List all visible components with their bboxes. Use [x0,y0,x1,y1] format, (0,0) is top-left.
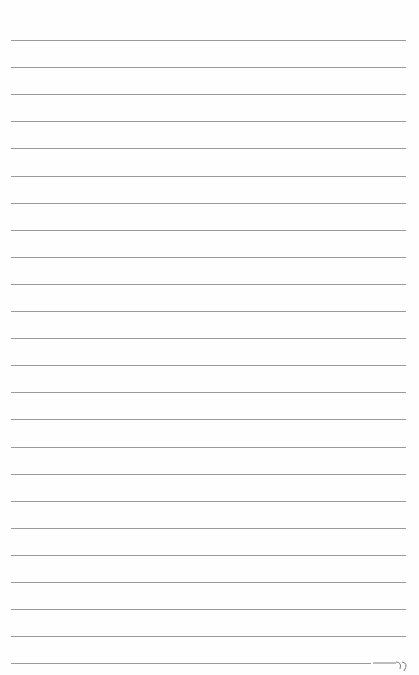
ruled-line [11,311,406,312]
ruled-line [11,528,406,529]
ruled-line [11,67,406,68]
ruled-line [11,121,406,122]
ruled-line [11,94,406,95]
ruled-line [11,582,406,583]
ruled-line [11,148,406,149]
ruled-line [11,474,406,475]
ruled-line [11,338,406,339]
ruled-line [11,419,406,420]
closing-quote-scribble-icon [372,659,408,673]
ruled-line [11,40,406,41]
ruled-line [11,609,406,610]
ruled-line [11,176,406,177]
ruled-line [11,663,371,664]
ruled-line [11,447,406,448]
ruled-line [11,230,406,231]
ruled-line [11,284,406,285]
ruled-line [11,392,406,393]
ruled-line [11,636,406,637]
ruled-line [11,257,406,258]
ruled-line [11,501,406,502]
ruled-line [11,203,406,204]
ruled-line [11,555,406,556]
ruled-line [11,365,406,366]
lined-paper-page [0,0,419,675]
